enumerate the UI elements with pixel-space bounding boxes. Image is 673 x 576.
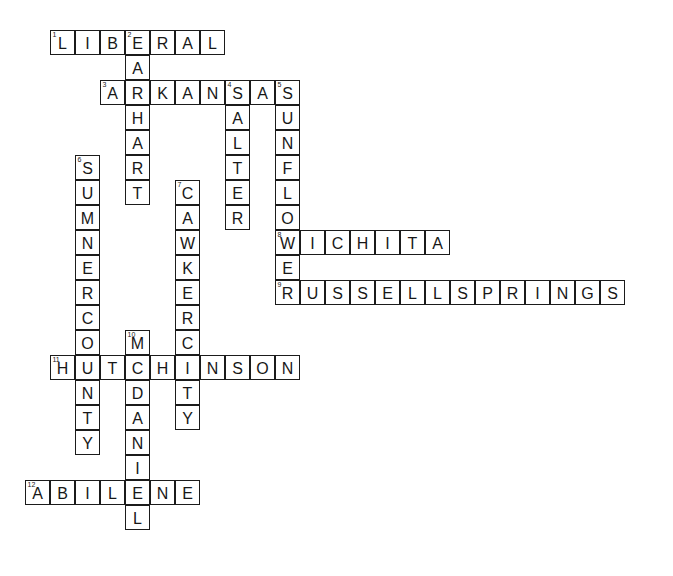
crossword-cell[interactable]: I (300, 230, 325, 255)
crossword-cell[interactable]: N (275, 130, 300, 155)
crossword-cell[interactable]: A (125, 405, 150, 430)
crossword-cell[interactable]: A (175, 205, 200, 230)
crossword-cell[interactable]: 3A (100, 80, 125, 105)
crossword-cell[interactable]: 7C (175, 180, 200, 205)
crossword-cell[interactable]: W (175, 230, 200, 255)
crossword-cell[interactable]: 8W (275, 230, 300, 255)
crossword-cell[interactable]: S (600, 280, 625, 305)
crossword-cell[interactable]: U (75, 355, 100, 380)
crossword-cell[interactable]: N (200, 80, 225, 105)
crossword-cell[interactable]: R (125, 155, 150, 180)
crossword-cell[interactable]: O (275, 205, 300, 230)
crossword-cell[interactable]: I (75, 480, 100, 505)
crossword-cell[interactable]: R (175, 305, 200, 330)
crossword-cell[interactable]: 12A (25, 480, 50, 505)
crossword-cell[interactable]: 5S (275, 80, 300, 105)
crossword-cell[interactable]: T (125, 180, 150, 205)
crossword-cell[interactable]: B (100, 30, 125, 55)
crossword-cell[interactable]: U (300, 280, 325, 305)
crossword-cell[interactable]: E (75, 255, 100, 280)
crossword-cell[interactable]: N (550, 280, 575, 305)
crossword-cell[interactable]: T (100, 355, 125, 380)
crossword-cell[interactable]: I (125, 455, 150, 480)
crossword-cell[interactable]: N (75, 230, 100, 255)
cell-letter: P (482, 285, 493, 301)
crossword-cell[interactable]: 11H (50, 355, 75, 380)
crossword-cell[interactable]: 9R (275, 280, 300, 305)
crossword-cell[interactable]: 1L (50, 30, 75, 55)
crossword-cell[interactable]: E (125, 480, 150, 505)
crossword-cell[interactable]: E (275, 255, 300, 280)
crossword-cell[interactable]: C (75, 305, 100, 330)
crossword-cell[interactable]: C (175, 330, 200, 355)
crossword-cell[interactable]: E (175, 480, 200, 505)
crossword-cell[interactable]: Y (75, 430, 100, 455)
crossword-cell[interactable]: H (350, 230, 375, 255)
crossword-cell[interactable]: S (350, 280, 375, 305)
crossword-cell[interactable]: L (275, 180, 300, 205)
crossword-cell[interactable]: K (175, 255, 200, 280)
crossword-cell[interactable]: L (400, 280, 425, 305)
crossword-cell[interactable]: B (50, 480, 75, 505)
crossword-cell[interactable]: L (225, 130, 250, 155)
crossword-cell[interactable]: C (325, 230, 350, 255)
crossword-cell[interactable]: 4S (225, 80, 250, 105)
crossword-cell[interactable]: A (225, 105, 250, 130)
crossword-cell[interactable]: N (200, 355, 225, 380)
crossword-cell[interactable]: S (325, 280, 350, 305)
crossword-cell[interactable]: L (425, 280, 450, 305)
crossword-cell[interactable]: A (425, 230, 450, 255)
crossword-cell[interactable]: L (125, 505, 150, 530)
crossword-cell[interactable]: S (450, 280, 475, 305)
crossword-cell[interactable]: F (275, 155, 300, 180)
crossword-cell[interactable]: E (225, 180, 250, 205)
crossword-cell[interactable]: G (575, 280, 600, 305)
crossword-cell[interactable]: Y (175, 405, 200, 430)
crossword-cell[interactable]: K (150, 80, 175, 105)
crossword-cell[interactable]: I (175, 355, 200, 380)
crossword-cell[interactable]: L (200, 30, 225, 55)
crossword-cell[interactable]: T (225, 155, 250, 180)
crossword-cell[interactable]: U (275, 105, 300, 130)
crossword-cell[interactable]: E (375, 280, 400, 305)
crossword-cell[interactable]: A (125, 55, 150, 80)
crossword-cell[interactable]: N (150, 480, 175, 505)
crossword-cell[interactable]: R (75, 280, 100, 305)
crossword-cell[interactable]: H (150, 355, 175, 380)
crossword-cell[interactable]: I (525, 280, 550, 305)
crossword-cell[interactable]: T (175, 380, 200, 405)
crossword-cell[interactable]: C (125, 355, 150, 380)
crossword-cell[interactable]: I (375, 230, 400, 255)
crossword-cell[interactable]: T (400, 230, 425, 255)
crossword-cell[interactable]: E (175, 280, 200, 305)
crossword-cell[interactable]: R (225, 205, 250, 230)
crossword-cell[interactable]: M (75, 205, 100, 230)
cell-letter: K (157, 85, 168, 101)
crossword-cell[interactable]: 6S (75, 155, 100, 180)
crossword-cell[interactable]: D (125, 380, 150, 405)
crossword-cell[interactable]: P (475, 280, 500, 305)
crossword-cell[interactable]: L (100, 480, 125, 505)
crossword-cell[interactable]: T (75, 405, 100, 430)
crossword-cell[interactable]: N (275, 355, 300, 380)
cell-letter: E (282, 260, 293, 276)
cell-letter: D (132, 385, 144, 401)
crossword-cell[interactable]: N (75, 380, 100, 405)
crossword-cell[interactable]: A (125, 130, 150, 155)
crossword-cell[interactable]: O (75, 330, 100, 355)
crossword-cell[interactable]: O (250, 355, 275, 380)
crossword-cell[interactable]: 2E (125, 30, 150, 55)
crossword-cell[interactable]: R (150, 30, 175, 55)
crossword-cell[interactable]: S (225, 355, 250, 380)
crossword-cell[interactable]: 10M (125, 330, 150, 355)
crossword-cell[interactable]: A (175, 30, 200, 55)
crossword-cell[interactable]: A (175, 80, 200, 105)
crossword-cell[interactable]: I (75, 30, 100, 55)
cell-letter: C (332, 235, 344, 251)
crossword-cell[interactable]: A (250, 80, 275, 105)
crossword-cell[interactable]: U (75, 180, 100, 205)
crossword-cell[interactable]: R (500, 280, 525, 305)
crossword-cell[interactable]: R (125, 80, 150, 105)
crossword-cell[interactable]: H (125, 105, 150, 130)
crossword-cell[interactable]: N (125, 430, 150, 455)
